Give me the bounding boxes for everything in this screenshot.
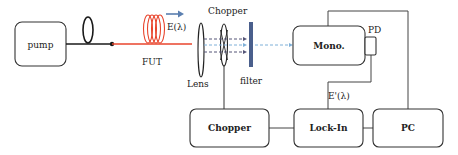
fut-node: FUT E(λ)	[112, 11, 192, 68]
lockin-label: Lock-In	[309, 123, 348, 133]
field-label: E(λ)	[167, 22, 186, 32]
pd-node: PD	[365, 25, 381, 55]
lens-icon	[198, 23, 204, 77]
pump-fiber	[66, 17, 114, 46]
fut-label: FUT	[142, 57, 162, 67]
optical-setup-diagram: pump FUT E(λ) Lens Chopper	[0, 0, 458, 155]
propagation-arrow-icon	[166, 11, 184, 18]
chopper-wheel-node: Chopper	[208, 6, 248, 109]
mono-node: Mono.	[293, 26, 365, 65]
pc-node: PC	[373, 109, 443, 147]
mono-label: Mono.	[313, 41, 345, 51]
filter-icon	[249, 22, 253, 67]
lens-label: Lens	[187, 79, 209, 89]
pc-label: PC	[401, 123, 415, 133]
chopper-box-label: Chopper	[208, 123, 251, 133]
chopper-box-node: Chopper	[190, 109, 269, 147]
filter-label: filter	[240, 76, 263, 86]
pump-node: pump	[15, 22, 66, 66]
beam-lines	[204, 37, 293, 54]
chopper-wheel-label: Chopper	[208, 6, 248, 16]
filter-node: filter	[240, 22, 263, 86]
fiber-loop-icon	[83, 17, 93, 43]
pd-label: PD	[368, 25, 381, 35]
pump-label: pump	[28, 40, 54, 50]
lens-node: Lens	[187, 23, 209, 89]
lockin-node: Lock-In	[294, 109, 363, 147]
signal-label: E'(λ)	[328, 91, 350, 101]
